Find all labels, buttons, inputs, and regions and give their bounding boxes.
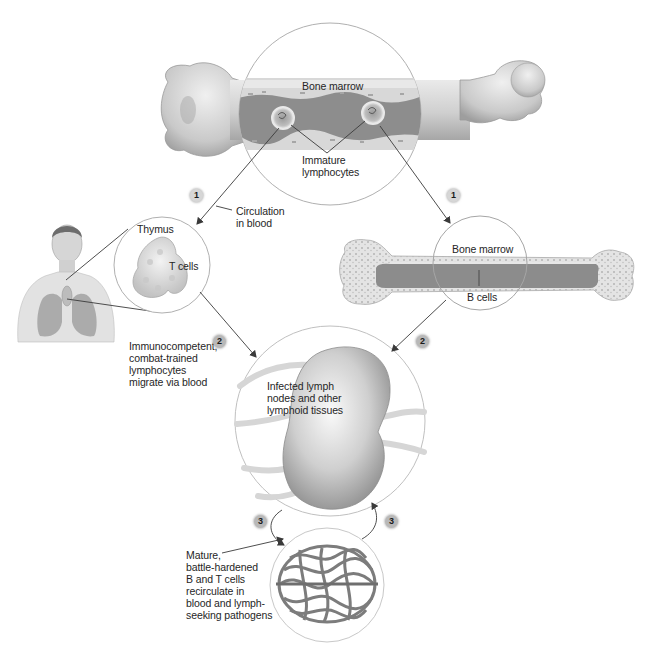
lymph-node-magnifier	[235, 326, 425, 516]
label-t-cells: T cells	[169, 260, 198, 272]
step-badge-1-right: 1	[447, 189, 460, 202]
step-badge-2-right: 2	[416, 335, 429, 348]
label-bone-marrow-right: Bone marrow	[452, 243, 513, 255]
label-infected-lymph-nodes: Infected lymph nodes and other lymphoid …	[267, 380, 343, 416]
step-badge-2-left: 2	[213, 335, 226, 348]
label-thymus: Thymus	[137, 223, 174, 235]
lymphocyte-diagram: Bone marrow Immature lymphocytes Circula…	[0, 0, 649, 659]
step-badge-3-left: 3	[254, 515, 267, 528]
step-badge-3-right: 3	[385, 515, 398, 528]
label-bone-marrow-top: Bone marrow	[302, 80, 363, 92]
label-mature-cells: Mature, battle-hardened B and T cells re…	[186, 549, 272, 621]
diagram-artwork	[0, 0, 649, 659]
label-immature-lymphocytes: Immature lymphocytes	[302, 154, 359, 178]
lymphatic-network-magnifier	[270, 528, 384, 642]
step-badge-1-left: 1	[190, 189, 203, 202]
label-immunocompetent: Immunocompetent, combat-trained lymphocy…	[129, 340, 217, 388]
label-b-cells: B cells	[467, 291, 497, 303]
label-circulation-in-blood: Circulation in blood	[236, 205, 285, 229]
